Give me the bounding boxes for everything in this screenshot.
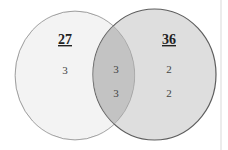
right-set-total: 36 xyxy=(162,32,176,47)
intersection-value-1: 3 xyxy=(113,63,119,75)
left-only-value: 3 xyxy=(62,64,68,76)
venn-diagram: 27 3 36 2 2 3 3 xyxy=(0,0,228,150)
right-only-value-2: 2 xyxy=(166,87,172,99)
right-only-value-1: 2 xyxy=(166,63,172,75)
left-set-total: 27 xyxy=(58,32,72,47)
intersection-value-2: 3 xyxy=(113,87,119,99)
